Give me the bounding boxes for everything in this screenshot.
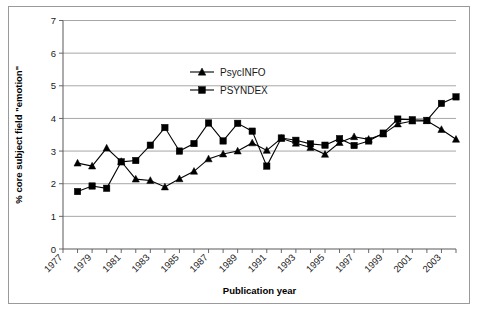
data-point-marker bbox=[307, 141, 313, 147]
data-point-marker bbox=[351, 133, 358, 140]
x-axis-tick-label: 1999 bbox=[362, 252, 385, 275]
x-axis-tick-label: 1995 bbox=[304, 252, 327, 275]
chart-legend: PsycINFOPSYNDEX bbox=[190, 67, 268, 96]
line-chart: 01234567 1977197919811983198519871989199… bbox=[0, 0, 478, 312]
data-point-marker bbox=[162, 124, 168, 130]
data-point-marker bbox=[176, 148, 182, 154]
data-point-marker bbox=[322, 142, 328, 148]
y-axis-tick-group bbox=[59, 21, 63, 250]
x-axis-tick-label: 1987 bbox=[187, 252, 210, 275]
x-axis-tick-label: 1997 bbox=[333, 252, 356, 275]
legend-marker-square bbox=[199, 87, 206, 94]
data-point-marker bbox=[191, 140, 197, 146]
y-axis-tick-label: 2 bbox=[51, 178, 56, 189]
data-point-marker bbox=[452, 136, 459, 143]
data-point-marker bbox=[74, 188, 80, 194]
y-axis-tick-label: 3 bbox=[51, 146, 56, 157]
data-point-marker bbox=[176, 175, 183, 182]
data-point-marker bbox=[234, 120, 240, 126]
data-point-marker bbox=[409, 117, 415, 123]
y-axis-tick-label: 7 bbox=[51, 15, 56, 26]
data-point-marker bbox=[220, 138, 226, 144]
x-axis-title: Publication year bbox=[223, 285, 297, 296]
data-point-marker bbox=[424, 117, 430, 123]
data-series-group bbox=[74, 94, 460, 195]
legend-label: PSYNDEX bbox=[220, 85, 268, 96]
data-point-marker bbox=[438, 100, 444, 106]
x-axis-labels: 1977197919811983198519871989199119931995… bbox=[42, 252, 443, 275]
y-axis-title: % core subject field "emotion" bbox=[13, 66, 24, 204]
figure-container: 01234567 1977197919811983198519871989199… bbox=[0, 0, 478, 312]
series-psycinfo bbox=[74, 117, 460, 190]
data-point-marker bbox=[438, 126, 445, 133]
x-axis-tick-label: 1989 bbox=[216, 252, 239, 275]
data-point-marker bbox=[293, 137, 299, 143]
data-point-marker bbox=[147, 142, 153, 148]
x-axis-tick-label: 1981 bbox=[100, 252, 123, 275]
legend-label: PsycINFO bbox=[220, 67, 266, 78]
x-axis-tick-label: 1985 bbox=[158, 252, 181, 275]
y-axis-tick-label: 4 bbox=[51, 113, 56, 124]
data-point-marker bbox=[249, 139, 256, 146]
data-point-marker bbox=[74, 159, 81, 166]
x-axis-tick-label: 1979 bbox=[71, 252, 94, 275]
data-point-marker bbox=[336, 135, 342, 141]
x-axis-tick-label: 2003 bbox=[420, 252, 443, 275]
data-point-marker bbox=[278, 135, 284, 141]
y-axis-labels: 01234567 bbox=[51, 15, 56, 255]
data-point-marker bbox=[380, 130, 386, 136]
y-axis-tick-label: 6 bbox=[51, 48, 56, 59]
data-point-marker bbox=[118, 159, 124, 165]
data-point-marker bbox=[89, 183, 95, 189]
data-point-marker bbox=[249, 128, 255, 134]
data-point-marker bbox=[453, 94, 459, 100]
data-point-marker bbox=[133, 157, 139, 163]
y-axis-tick-label: 5 bbox=[51, 80, 56, 91]
x-axis-tick-label: 1993 bbox=[275, 252, 298, 275]
data-point-marker bbox=[103, 144, 110, 151]
data-point-marker bbox=[264, 163, 270, 169]
y-axis-tick-label: 1 bbox=[51, 211, 56, 222]
data-point-marker bbox=[395, 116, 401, 122]
data-point-marker bbox=[205, 120, 211, 126]
x-axis-tick-label: 1983 bbox=[129, 252, 152, 275]
data-point-marker bbox=[103, 185, 109, 191]
data-point-marker bbox=[351, 142, 357, 148]
x-axis-tick-label: 2001 bbox=[391, 252, 414, 275]
data-point-marker bbox=[161, 183, 168, 190]
data-point-marker bbox=[321, 151, 328, 158]
series-psyndex bbox=[74, 94, 459, 195]
x-axis-tick-label: 1977 bbox=[42, 252, 65, 275]
x-axis-tick-label: 1991 bbox=[245, 252, 268, 275]
data-point-marker bbox=[365, 138, 371, 144]
